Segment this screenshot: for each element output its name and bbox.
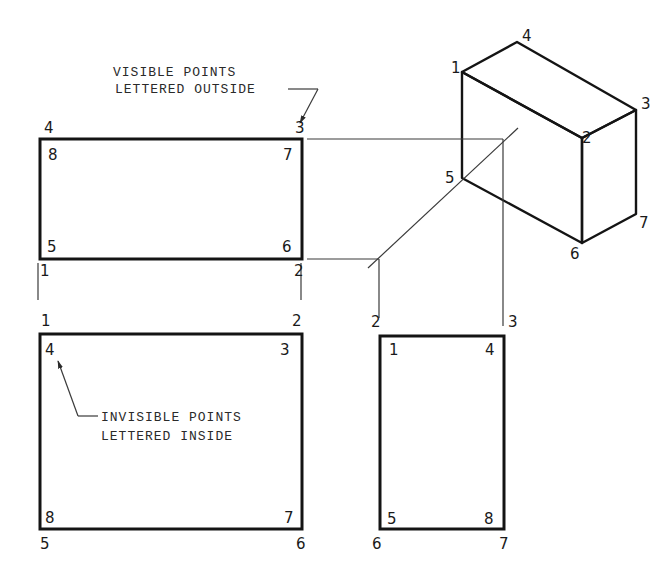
iso-label: 5 — [445, 169, 455, 187]
isometric-view — [462, 42, 636, 243]
front-view-outside-label: 6 — [296, 535, 306, 553]
front-view-outside-label: 5 — [40, 535, 50, 553]
top-view-outside-label: 2 — [294, 262, 304, 280]
iso-label: 3 — [641, 95, 651, 113]
front-view-inside-label: 7 — [284, 509, 294, 527]
top-view — [40, 139, 302, 259]
top-view-outside-label: 3 — [295, 119, 305, 137]
iso-front-face — [462, 72, 582, 243]
visible-note-line2: LETTERED OUTSIDE — [115, 82, 256, 97]
iso-label: 1 — [451, 59, 461, 77]
iso-label: 2 — [582, 129, 592, 147]
visible-note-line1: VISIBLE POINTS — [113, 65, 236, 80]
top-view-inside-label: 6 — [282, 238, 292, 256]
iso-label: 4 — [522, 27, 532, 45]
side-view-outside-label: 6 — [372, 535, 382, 553]
front-view-inside-label: 4 — [45, 341, 55, 359]
front-view-outside-label: 2 — [292, 312, 302, 330]
side-view-inside-label: 8 — [484, 510, 494, 528]
iso-label: 7 — [639, 214, 649, 232]
side-view-outside-label: 7 — [499, 535, 509, 553]
top-view-inside-label: 5 — [47, 238, 57, 256]
side-view-inside-label: 1 — [389, 341, 399, 359]
top-view-inside-label: 8 — [48, 146, 58, 164]
side-view-outside-label: 3 — [508, 313, 518, 331]
top-view-outside-label: 1 — [40, 262, 50, 280]
side-view-outside-label: 2 — [371, 313, 381, 331]
top-view-outside-label: 4 — [44, 119, 54, 137]
iso-label: 6 — [570, 245, 580, 263]
front-view-inside-label: 3 — [280, 341, 290, 359]
orthographic-projection-diagram: VISIBLE POINTS LETTERED OUTSIDE INVISIBL… — [0, 0, 669, 574]
side-view-inside-label: 4 — [485, 341, 495, 359]
top-view-inside-label: 7 — [283, 146, 293, 164]
front-view-inside-label: 8 — [45, 509, 55, 527]
side-view-inside-label: 5 — [387, 510, 397, 528]
invisible-note-line2: LETTERED INSIDE — [101, 429, 233, 444]
front-view-outside-label: 1 — [41, 312, 51, 330]
invisible-note-line1: INVISIBLE POINTS — [101, 410, 242, 425]
side-view — [380, 336, 504, 529]
